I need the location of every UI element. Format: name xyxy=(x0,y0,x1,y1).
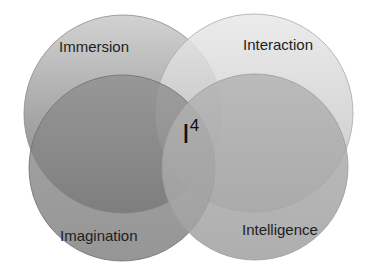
center-label-base: I xyxy=(182,118,190,149)
label-interaction: Interaction xyxy=(243,36,313,53)
label-immersion: Immersion xyxy=(59,38,129,55)
label-intelligence: Intelligence xyxy=(242,221,318,238)
center-label-superscript: 4 xyxy=(190,116,199,135)
center-label-i4: I4 xyxy=(182,118,199,150)
label-imagination: Imagination xyxy=(60,227,138,244)
